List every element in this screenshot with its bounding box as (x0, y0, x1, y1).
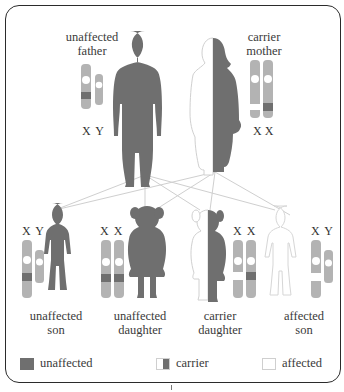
chromosome-y (95, 74, 103, 105)
father-label-line2: father (60, 44, 124, 58)
legend-unaffected-label: unaffected (40, 356, 93, 371)
child-4-label-line2: son (272, 323, 336, 337)
mother-left-outline (190, 38, 213, 175)
affected-swatch-icon (262, 358, 276, 370)
father-chromosome-labels: X Y (82, 124, 105, 139)
affected-son-chromosomes (311, 240, 333, 298)
child-1-label: unaffected son (20, 309, 92, 337)
pigtail-right (154, 207, 164, 219)
father-chromosomes (81, 64, 103, 109)
child-2-label: unaffected daughter (104, 309, 176, 337)
unaffected-swatch-icon (20, 358, 34, 370)
unaffected-son-chromosomes (22, 240, 44, 298)
father-label: unaffected father (60, 30, 124, 58)
mother-chromosome-labels: X X (253, 124, 273, 139)
legend-carrier-label: carrier (176, 356, 209, 371)
chromosome-x (81, 64, 91, 109)
pigtail-left (130, 207, 140, 219)
child-2-chromosome-labels: X X (100, 224, 123, 239)
child-3-label-line1: carrier (188, 309, 252, 323)
child-2-label-line1: unaffected (104, 309, 176, 323)
legend-carrier: carrier (156, 356, 209, 371)
child-2-label-line2: daughter (104, 323, 176, 337)
mother-label-line2: mother (236, 44, 292, 58)
legend-affected-label: affected (282, 356, 322, 371)
child-3-label-line2: daughter (188, 323, 252, 337)
child-3-label: carrier daughter (188, 309, 252, 337)
carrier-swatch-icon (156, 358, 170, 370)
child-4-label: affected son (272, 309, 336, 337)
bottom-tick-mark (171, 385, 172, 390)
carrier-daughter-chromosomes (233, 240, 256, 298)
mother-label: carrier mother (236, 30, 292, 58)
inheritance-line (215, 172, 290, 215)
legend-unaffected: unaffected (20, 356, 93, 371)
unaffected-son-figure (44, 203, 71, 290)
inheritance-line (145, 175, 200, 210)
child-4-chromosome-labels: X Y (311, 224, 334, 239)
mother-right-filled (213, 38, 241, 172)
mother-label-line1: carrier (236, 30, 292, 44)
child-1-chromosome-labels: X Y (22, 224, 45, 239)
affected-son-figure (265, 206, 296, 295)
inheritance-lines (55, 172, 290, 215)
child-1-label-line2: son (20, 323, 92, 337)
carrier-daughter-figure (191, 210, 226, 302)
mother-chromosomes (250, 60, 273, 118)
inheritance-line (145, 175, 275, 210)
child-1-label-line1: unaffected (20, 309, 92, 323)
inheritance-line (210, 172, 215, 210)
unaffected-daughter-chromosomes (101, 240, 124, 298)
child-4-label-line1: affected (272, 309, 336, 323)
unaffected-daughter-figure (128, 206, 166, 298)
child-3-chromosome-labels: X X (233, 224, 256, 239)
legend-affected: affected (262, 356, 322, 371)
mother-figure (190, 38, 241, 175)
father-label-line1: unaffected (60, 30, 124, 44)
